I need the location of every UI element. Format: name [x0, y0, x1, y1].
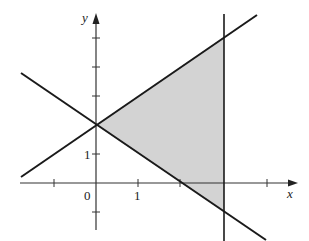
region-diagram: y x 0 1 1	[0, 0, 309, 241]
y-axis-arrow-icon	[93, 13, 100, 24]
x-tick-label-1: 1	[134, 188, 141, 203]
y-axis-label: y	[80, 10, 88, 25]
y-tick-label-1: 1	[84, 147, 91, 162]
shaded-region	[96, 37, 224, 212]
origin-label: 0	[84, 188, 91, 203]
x-axis-label: x	[286, 186, 293, 201]
